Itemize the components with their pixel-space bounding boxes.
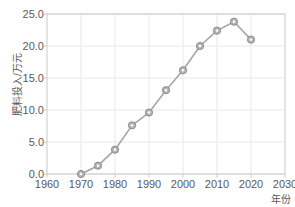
- x-tick-label: 2010: [205, 178, 229, 190]
- x-tick-label: 2020: [239, 178, 263, 190]
- data-point-marker-center: [216, 29, 218, 31]
- data-point-marker-center: [250, 38, 252, 40]
- x-tick-label: 1970: [69, 178, 93, 190]
- plot-area: [0, 0, 295, 207]
- data-point-marker-center: [97, 164, 99, 166]
- x-tick-label: 1990: [137, 178, 161, 190]
- data-point-marker-center: [148, 111, 150, 113]
- data-point-marker-center: [233, 20, 235, 22]
- data-point-marker-center: [114, 148, 116, 150]
- data-point-marker-center: [131, 124, 133, 126]
- x-tick-label: 2030: [273, 178, 295, 190]
- x-tick-label: 2000: [171, 178, 195, 190]
- x-tick-label: 1980: [103, 178, 127, 190]
- x-tick-label: 1960: [35, 178, 59, 190]
- data-point-marker-center: [199, 45, 201, 47]
- fertilizer-input-line-chart: 0.05.010.015.020.025.0 肥料投入/万元 年份 196019…: [0, 0, 295, 207]
- data-point-marker-center: [80, 173, 82, 175]
- data-point-marker-center: [165, 89, 167, 91]
- data-point-marker-center: [182, 69, 184, 71]
